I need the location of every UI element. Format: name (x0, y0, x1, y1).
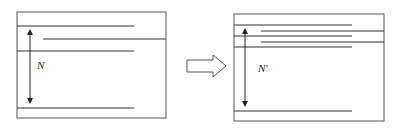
left-panel: N (17, 12, 166, 118)
right-label-n-prime: N′ (257, 62, 268, 74)
right-panel: N′ (234, 14, 384, 121)
right-box (234, 14, 384, 121)
diagram-canvas: N N′ (0, 0, 396, 129)
left-label-n: N (36, 59, 45, 71)
hollow-right-arrow-icon (187, 55, 226, 77)
